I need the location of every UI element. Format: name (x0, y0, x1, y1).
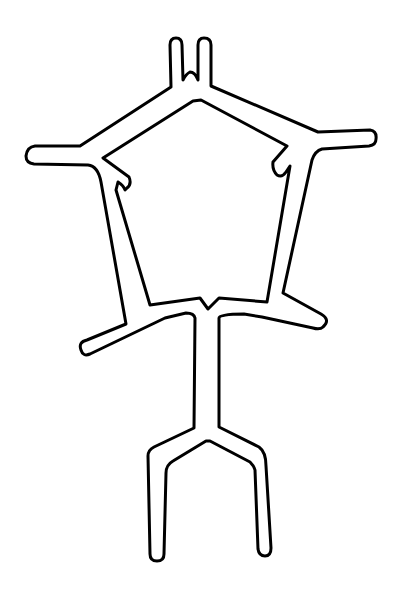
drawing-canvas (0, 0, 398, 599)
figure-inner-outline (103, 100, 290, 309)
figure-outline-drawing (0, 0, 398, 599)
